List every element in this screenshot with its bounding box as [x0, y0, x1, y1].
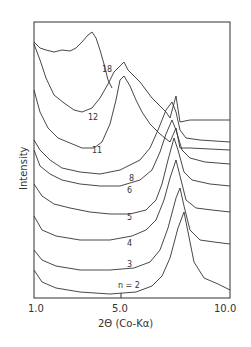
x-tick-label-1: 1.0 [28, 303, 44, 314]
curve-8 [34, 102, 230, 174]
curve-11 [34, 76, 230, 150]
curve-18 [34, 32, 112, 88]
curve-4 [34, 160, 230, 240]
curve-label-12: 12 [88, 113, 98, 122]
curve-label-11: 11 [92, 146, 102, 155]
curve-label-4: 4 [127, 239, 132, 248]
curve-label-6: 6 [127, 186, 132, 195]
curve-label-18: 18 [102, 65, 112, 74]
curve-12 [34, 44, 230, 122]
curve-label-n2: n = 2 [118, 281, 140, 290]
xrd-chart: 18 12 11 8 6 5 4 3 n = 2 1.0 5.0 10.0 2Θ… [0, 0, 251, 347]
plot-frame [34, 22, 230, 298]
curve-label-5: 5 [127, 213, 132, 222]
curve-label-8: 8 [129, 174, 134, 183]
y-axis-label: Intensity [18, 146, 29, 190]
x-tick-label-10: 10.0 [214, 303, 236, 314]
x-tick-label-5: 5.0 [112, 303, 128, 314]
curve-label-3: 3 [127, 260, 132, 269]
x-axis-label: 2Θ (Co-Kα) [98, 318, 153, 329]
curve-3 [34, 188, 230, 270]
curves [34, 32, 230, 294]
